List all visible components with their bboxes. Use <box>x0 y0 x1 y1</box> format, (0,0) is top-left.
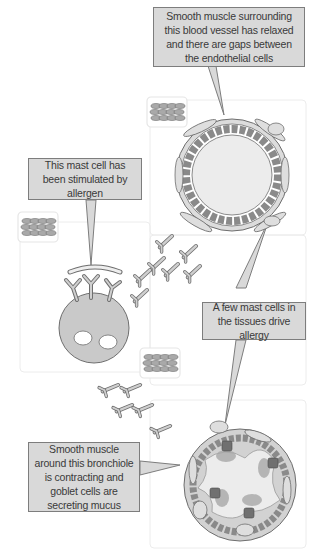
callout-tissue-mast-cells-text: A few mast cells in the tissues drive al… <box>207 300 301 342</box>
callout-mast-cell: This mast cell has been stimulated by al… <box>28 158 142 200</box>
callout-tissue-mast-cells: A few mast cells in the tissues drive al… <box>202 302 306 340</box>
callout-bronchiole-text: Smooth muscle around this bronchiole is … <box>33 442 135 512</box>
mast-cell-illustration <box>59 267 129 363</box>
smooth-muscle-icon-1 <box>147 97 187 127</box>
callout-blood-vessel: Smooth muscle surrounding this blood ves… <box>153 7 305 67</box>
smooth-muscle-icon-3 <box>140 348 180 378</box>
bronchiole-illustration <box>184 421 296 541</box>
callout-bronchiole: Smooth muscle around this bronchiole is … <box>28 442 140 512</box>
smooth-muscle-icon-2 <box>18 212 58 242</box>
callout-blood-vessel-text: Smooth muscle surrounding this blood ves… <box>158 9 300 65</box>
callout-mast-cell-text: This mast cell has been stimulated by al… <box>33 158 137 200</box>
blood-vessel-illustration <box>175 116 289 234</box>
